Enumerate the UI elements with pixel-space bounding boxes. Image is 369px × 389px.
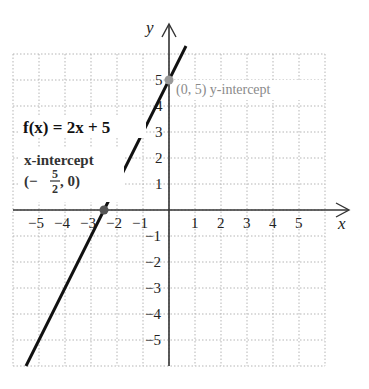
x-tick-label: −5 <box>28 215 44 231</box>
function-label: f(x) = 2x + 5 <box>23 118 110 137</box>
graph-canvas: −5−4−3−2−112345 −5−4−3−2−112345 x y f(x)… <box>0 0 369 389</box>
x-intercept-open: (− <box>24 173 38 190</box>
x-intercept-denominator: 2 <box>52 182 58 196</box>
x-axis-label: x <box>337 214 346 233</box>
x-tick-label: −2 <box>106 215 122 231</box>
y-tick-label: −4 <box>145 306 161 322</box>
y-tick-label: −2 <box>145 254 161 270</box>
x-tick-label: 2 <box>217 215 225 231</box>
y-tick-label: 5 <box>155 72 163 88</box>
y-tick-label: 1 <box>155 176 163 192</box>
x-tick-label: −4 <box>54 215 70 231</box>
y-intercept-label: (0, 5) y-intercept <box>176 82 271 98</box>
x-intercept-point <box>100 206 109 215</box>
y-intercept-point <box>165 76 174 85</box>
y-tick-label: 2 <box>155 150 163 166</box>
y-tick-label: −1 <box>145 228 161 244</box>
x-intercept-close: , 0) <box>60 173 80 190</box>
x-intercept-title: x-intercept <box>24 152 94 168</box>
x-tick-label: 3 <box>243 215 251 231</box>
x-tick-label: 1 <box>191 215 199 231</box>
x-tick-label: 4 <box>269 215 277 231</box>
y-axis-label: y <box>144 18 154 37</box>
y-tick-label: −3 <box>145 280 161 296</box>
x-tick-labels: −5−4−3−2−112345 <box>28 215 303 231</box>
y-tick-label: 3 <box>155 124 163 140</box>
x-tick-label: 5 <box>295 215 303 231</box>
x-intercept-numerator: 5 <box>52 167 58 181</box>
y-tick-label: −5 <box>145 332 161 348</box>
